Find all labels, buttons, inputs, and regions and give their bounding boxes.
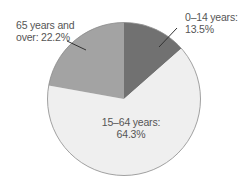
slice-label-15-64-years: 15–64 years: 64.3% <box>100 116 162 140</box>
label-line-1: 0–14 years: <box>185 11 238 23</box>
slice-label-65-years-and-over: 65 years and over: 22.2% <box>16 19 74 43</box>
label-line-2: over: 22.2% <box>16 31 74 43</box>
label-line-1: 65 years and <box>16 19 74 31</box>
slice-label-0-14-years: 0–14 years: 13.5% <box>185 11 238 35</box>
label-line-2: 13.5% <box>185 23 238 35</box>
pie-slices <box>47 23 200 176</box>
label-line-2: 64.3% <box>100 128 162 140</box>
label-line-1: 15–64 years: <box>100 116 162 128</box>
